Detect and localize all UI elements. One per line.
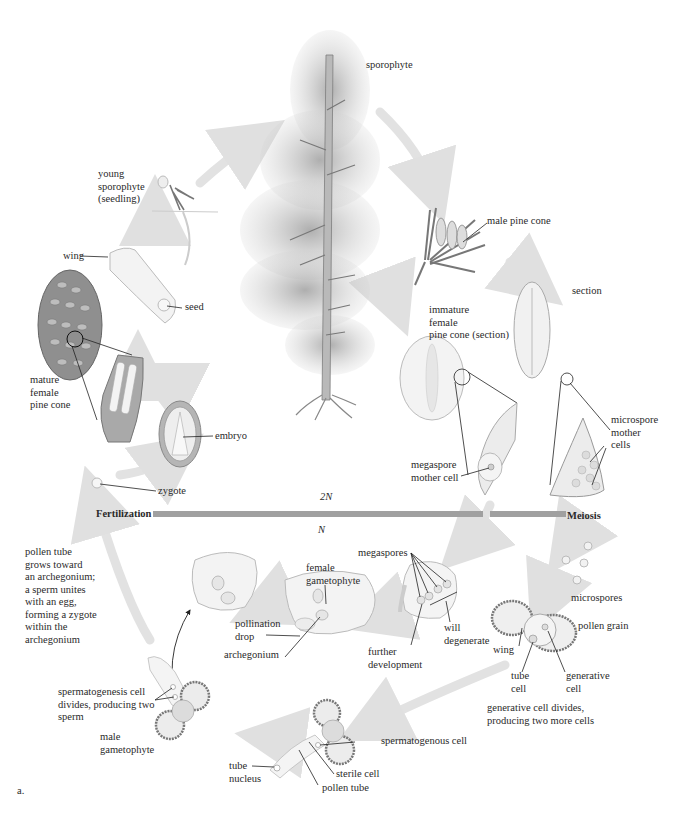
label-zygote: zygote — [158, 485, 186, 498]
label-generative-divides: generative cell divides, producing two m… — [487, 702, 594, 727]
label-sporophyte: sporophyte — [366, 59, 413, 72]
label-archegonium: archegonium — [224, 649, 279, 662]
pine-life-cycle-diagram: sporophyte male pine cone section immatu… — [0, 0, 674, 813]
label-section: section — [572, 285, 602, 298]
label-immature-female-cone: immature female pine cone (section) — [429, 304, 509, 342]
label-meiosis: Meiosis — [567, 510, 601, 523]
phase-bar-right — [490, 511, 566, 517]
label-male-gametophyte: male gametophyte — [100, 731, 154, 756]
label-generative-cell: generative cell — [566, 670, 610, 695]
label-megaspores: megaspores — [358, 547, 408, 560]
label-wing-pollen: wing — [493, 644, 514, 657]
label-microspore-mother-cells: microspore mother cells — [611, 414, 658, 452]
label-pollen-grain: pollen grain — [578, 620, 628, 633]
label-mature-female-cone: mature female pine cone — [30, 374, 71, 412]
pine-tree-illustration — [240, 30, 380, 420]
label-diploid: 2N — [320, 491, 332, 504]
label-female-gametophyte: female gametophyte — [306, 562, 360, 587]
male-gametophyte-illustration — [148, 657, 209, 739]
panel-label: a. — [17, 785, 24, 798]
label-spermatogenous-cell: spermatogenous cell — [381, 735, 467, 748]
label-male-pine-cone: male pine cone — [487, 215, 551, 228]
label-tube-nucleus: tube nucleus — [229, 760, 261, 785]
phase-bar-left — [153, 511, 483, 517]
male-cone-illustration — [415, 208, 485, 285]
label-sterile-cell: sterile cell — [336, 768, 379, 781]
label-further-development: further development — [368, 646, 422, 671]
label-wing-seed: wing — [63, 250, 84, 263]
label-haploid: N — [318, 524, 325, 537]
zygote-illustration — [92, 478, 102, 488]
label-embryo: embryo — [215, 430, 247, 443]
label-pollen-tube: pollen tube — [322, 782, 369, 795]
label-seed: seed — [185, 301, 204, 314]
label-young-sporophyte: young sporophyte (seedling) — [98, 168, 145, 206]
label-microspores: microspores — [571, 592, 622, 605]
seedling-illustration — [152, 176, 218, 265]
label-tube-cell: tube cell — [511, 670, 529, 695]
male-cone-section-illustration — [514, 282, 610, 497]
label-fertilization: Fertilization — [96, 508, 151, 521]
label-will-degenerate: will degenerate — [444, 622, 489, 647]
mature-female-cone-illustration — [38, 270, 143, 442]
embryo-seed-illustration — [159, 401, 213, 467]
label-spermatogenesis: spermatogenesis cell divides, producing … — [58, 686, 155, 724]
label-megaspore-mother-cell: megaspore mother cell — [411, 459, 459, 484]
label-pollen-tube-text: pollen tube grows toward an archegonium;… — [25, 546, 97, 646]
label-pollination-drop: pollination drop — [235, 618, 281, 643]
